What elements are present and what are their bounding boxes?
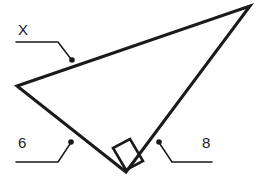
triangle-diagram: X 6 8 [0, 0, 264, 180]
leg-left-leader-dot [68, 139, 74, 145]
leg-right-label: 8 [202, 134, 210, 151]
leg-left-label: 6 [18, 134, 26, 151]
hypotenuse-leader-dot [69, 57, 75, 63]
diagram-background [0, 0, 264, 180]
geometry-figure-canvas: X 6 8 [0, 0, 264, 180]
hypotenuse-label: X [18, 21, 28, 38]
leg-right-leader-dot [156, 139, 162, 145]
